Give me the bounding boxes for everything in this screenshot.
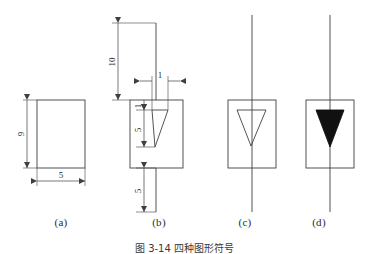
panel-a-width-label: 5	[59, 170, 64, 180]
panel-d	[306, 15, 354, 212]
technical-drawing: 9 5 10 1 1	[0, 0, 369, 254]
figure-root: 9 5 10 1 1	[0, 0, 369, 254]
panel-b-dim-5b-label: 5	[133, 188, 143, 193]
panel-a-height-label: 9	[16, 131, 26, 136]
panel-b-dim-10-label: 10	[107, 57, 117, 67]
panel-b-dim-5w-label: 5	[133, 127, 143, 132]
panel-a-rectangle	[37, 100, 85, 168]
panel-b-dim-1w-label: 1	[158, 70, 163, 80]
panel-b-wedge	[152, 110, 168, 147]
panel-c	[228, 15, 276, 212]
panel-b: 10 1 1 5 5	[107, 23, 183, 212]
panel-b-dim-1o-label: 1	[133, 104, 143, 109]
panel-a: 9 5	[16, 100, 85, 186]
figure-caption: 图 3-14 四种图形符号	[0, 241, 369, 254]
